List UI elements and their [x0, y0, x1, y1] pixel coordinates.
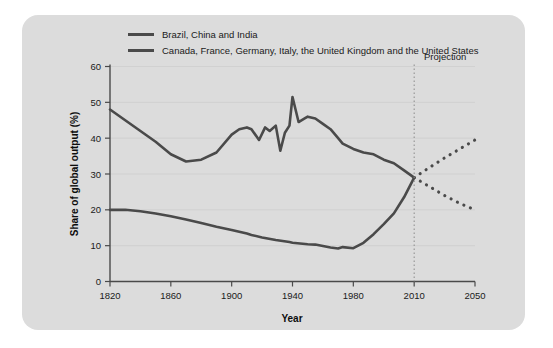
- tick-labels-group: 0102030405060182018601900194019802010205…: [90, 61, 485, 301]
- x-axis-tick-label: 1940: [282, 290, 303, 301]
- series-line: [414, 178, 475, 210]
- axes-group: [105, 65, 475, 287]
- x-axis-tick-label: 2050: [464, 290, 485, 301]
- chart-figure: Brazil, China and India Canada, France, …: [0, 0, 553, 348]
- y-axis-tick-label: 0: [96, 276, 101, 287]
- x-axis-tick-label: 1860: [160, 290, 181, 301]
- gridlines-group: [110, 67, 475, 246]
- y-axis-tick-label: 30: [90, 169, 101, 180]
- chart-plot-area: 0102030405060182018601900194019802010205…: [0, 0, 553, 348]
- x-axis-tick-label: 2010: [404, 290, 425, 301]
- y-axis-tick-label: 20: [90, 204, 101, 215]
- y-axis-title: Share of global output (%): [69, 112, 80, 236]
- y-axis-tick-label: 50: [90, 97, 101, 108]
- x-axis-tick-label: 1820: [99, 290, 120, 301]
- series-line: [110, 178, 414, 249]
- data-series-group: [110, 97, 475, 249]
- x-axis-tick-label: 1900: [221, 290, 242, 301]
- y-axis-tick-label: 60: [90, 61, 101, 72]
- projection-annotation-label: Projection: [424, 51, 466, 62]
- x-axis-title: Year: [281, 313, 302, 324]
- series-line: [414, 140, 475, 178]
- y-axis-tick-label: 40: [90, 133, 101, 144]
- series-line: [110, 97, 414, 178]
- x-axis-tick-label: 1980: [343, 290, 364, 301]
- y-axis-tick-label: 10: [90, 240, 101, 251]
